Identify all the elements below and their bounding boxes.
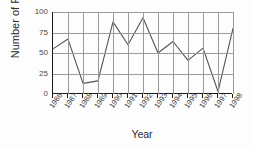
y-axis-tick-labels: 0255075100	[20, 0, 48, 147]
vertical-gridline	[233, 12, 234, 94]
vertical-gridline	[158, 12, 159, 94]
line-chart: Number of Frogs 0255075100 1986198719881…	[0, 0, 254, 147]
vertical-gridline	[143, 12, 144, 94]
vertical-gridline	[173, 12, 174, 94]
y-axis-tick-label: 25	[22, 70, 48, 78]
plot-area	[52, 12, 232, 94]
y-axis-tick-label: 0	[22, 90, 48, 98]
vertical-gridline	[188, 12, 189, 94]
vertical-gridline	[98, 12, 99, 94]
x-axis-tick-labels: 1986198719881989199019911992199319941995…	[52, 94, 232, 126]
vertical-gridline	[83, 12, 84, 94]
vertical-gridline	[68, 12, 69, 94]
y-axis-tick-label: 75	[22, 29, 48, 37]
y-axis-tick-label: 50	[22, 49, 48, 57]
vertical-gridline	[218, 12, 219, 94]
vertical-gridline	[128, 12, 129, 94]
vertical-gridline	[203, 12, 204, 94]
vertical-gridline	[113, 12, 114, 94]
y-axis-tick-label: 100	[22, 8, 48, 16]
x-axis-title: Year	[52, 128, 232, 140]
